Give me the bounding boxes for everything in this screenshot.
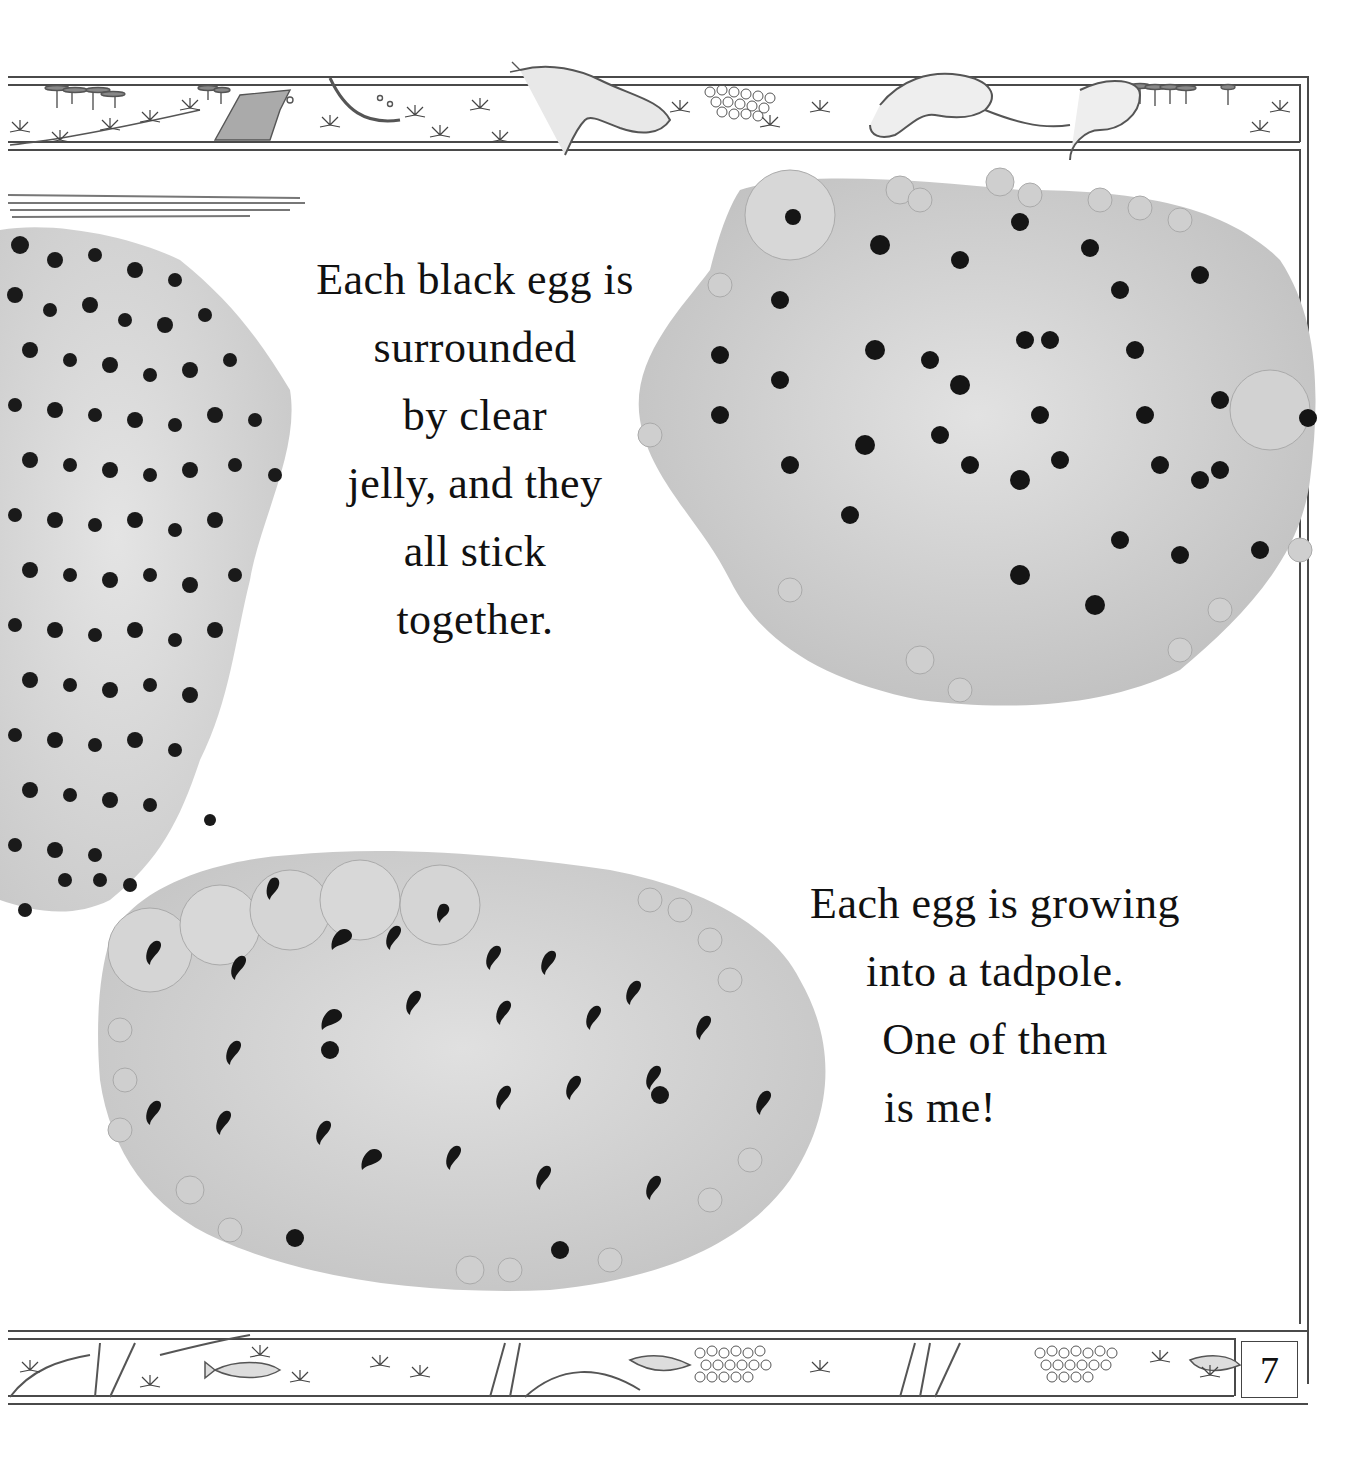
caption-line: all stick bbox=[270, 518, 680, 586]
frogspawn-photo-bottom-left bbox=[90, 830, 850, 1300]
pondweed-icon bbox=[10, 110, 200, 145]
caption-top: Each black egg is surrounded by clear je… bbox=[270, 246, 680, 654]
caption-bottom: Each egg is growing into a tadpole. One … bbox=[760, 870, 1230, 1142]
frog-leg-icon bbox=[330, 78, 400, 121]
caption-line: is me! bbox=[760, 1074, 1230, 1142]
page-number: 7 bbox=[1241, 1341, 1298, 1398]
caption-line: surrounded bbox=[270, 314, 680, 382]
frogspawn-photo-top-right bbox=[620, 160, 1340, 720]
reeds-icon bbox=[10, 1335, 960, 1397]
swimming-frog-icon bbox=[510, 62, 670, 155]
two-frogs-icon bbox=[870, 74, 1140, 160]
caption-line: Each egg is growing bbox=[760, 870, 1230, 938]
frogspawn-icon bbox=[705, 85, 775, 121]
bottom-border-illustration bbox=[0, 1325, 1240, 1415]
caption-line: One of them bbox=[760, 1006, 1230, 1074]
pondweed-icon bbox=[20, 1345, 1220, 1387]
caption-line: into a tadpole. bbox=[760, 938, 1230, 1006]
caption-line: by clear bbox=[270, 382, 680, 450]
caption-line: Each black egg is bbox=[270, 246, 680, 314]
frog-foot-icon bbox=[215, 90, 290, 140]
caption-line: jelly, and they bbox=[270, 450, 680, 518]
top-border-illustration bbox=[0, 0, 1361, 180]
caption-line: together. bbox=[270, 586, 680, 654]
